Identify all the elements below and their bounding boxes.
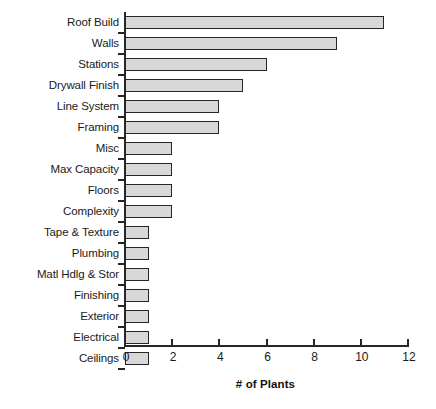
category-label: Roof Build	[0, 14, 119, 30]
category-label: Misc	[0, 140, 119, 156]
category-label: Plumbing	[0, 245, 119, 261]
x-axis-tick-label: 4	[200, 350, 240, 364]
bar-row: Max Capacity	[0, 159, 436, 180]
bar-chart: Roof BuildWallsStationsDrywall FinishLin…	[0, 0, 436, 409]
bar-row: Misc	[0, 138, 436, 159]
bar	[125, 247, 149, 260]
x-axis-tick-label: 12	[389, 350, 429, 364]
bar	[125, 163, 172, 176]
bar-row: Walls	[0, 33, 436, 54]
category-label: Walls	[0, 35, 119, 51]
bar-row: Stations	[0, 54, 436, 75]
bar	[125, 79, 243, 92]
x-axis-tick	[407, 339, 409, 347]
plot-area: Roof BuildWallsStationsDrywall FinishLin…	[0, 0, 436, 409]
bar	[125, 142, 172, 155]
x-axis-tick-label: 10	[342, 350, 382, 364]
bar-row: Complexity	[0, 201, 436, 222]
category-label: Finishing	[0, 287, 119, 303]
bar	[125, 16, 384, 29]
category-label: Electrical	[0, 329, 119, 345]
category-label: Max Capacity	[0, 161, 119, 177]
x-axis-tick-label: 2	[153, 350, 193, 364]
bar	[125, 205, 172, 218]
x-axis-tick	[124, 339, 126, 347]
category-label: Drywall Finish	[0, 77, 119, 93]
x-axis-tick	[313, 339, 315, 347]
bar	[125, 121, 219, 134]
x-axis-tick-label: 6	[248, 350, 288, 364]
bar	[125, 289, 149, 302]
bar-row: Matl Hdlg & Stor	[0, 264, 436, 285]
category-label: Framing	[0, 119, 119, 135]
bar	[125, 100, 219, 113]
x-axis-tick-label: 8	[295, 350, 335, 364]
bar-row: Plumbing	[0, 243, 436, 264]
x-axis-tick	[218, 339, 220, 347]
y-axis-tick	[118, 368, 125, 370]
bar-row: Tape & Texture	[0, 222, 436, 243]
category-label: Complexity	[0, 203, 119, 219]
category-label: Stations	[0, 56, 119, 72]
bar	[125, 184, 172, 197]
x-axis-tick	[266, 339, 268, 347]
bar	[125, 226, 149, 239]
category-label: Line System	[0, 98, 119, 114]
bar-row: Framing	[0, 117, 436, 138]
bar	[125, 58, 267, 71]
bar-row: Line System	[0, 96, 436, 117]
bar	[125, 37, 337, 50]
category-label: Ceilings	[0, 350, 119, 366]
category-label: Exterior	[0, 308, 119, 324]
bar-row: Roof Build	[0, 12, 436, 33]
category-label: Floors	[0, 182, 119, 198]
bar	[125, 268, 149, 281]
bar-row: Exterior	[0, 306, 436, 327]
bar-row: Floors	[0, 180, 436, 201]
x-axis-title: # of Plants	[124, 378, 407, 390]
bar	[125, 331, 149, 344]
bar-row: Finishing	[0, 285, 436, 306]
bar-row: Drywall Finish	[0, 75, 436, 96]
x-axis-tick	[360, 339, 362, 347]
category-label: Matl Hdlg & Stor	[0, 266, 119, 282]
bar	[125, 310, 149, 323]
x-axis-tick-label: 0	[106, 350, 146, 364]
x-axis-tick	[171, 339, 173, 347]
category-label: Tape & Texture	[0, 224, 119, 240]
